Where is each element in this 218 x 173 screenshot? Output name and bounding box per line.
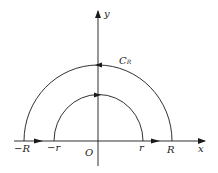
- arrow-segment-left-icon: [34, 139, 43, 144]
- pos-r-label: r: [139, 143, 144, 153]
- contour-diagram: y x O −R −r r R CR: [0, 0, 218, 173]
- neg-R-label: −R: [14, 144, 30, 154]
- arrow-outer-arc-icon: [95, 63, 102, 68]
- arrow-segment-right-icon: [151, 139, 160, 144]
- neg-r-label: −r: [47, 143, 60, 153]
- origin-label: O: [85, 148, 93, 158]
- curve-C-subscript: R: [127, 58, 132, 65]
- y-axis-label: y: [104, 9, 110, 19]
- inner-semicircle: [54, 94, 143, 141]
- diagram-svg: [0, 0, 218, 173]
- arrow-inner-arc-icon: [94, 93, 101, 98]
- pos-R-label: R: [167, 145, 175, 155]
- curve-C-main: C: [119, 55, 127, 66]
- x-axis-label: x: [198, 144, 204, 154]
- curve-C-label: CR: [119, 56, 131, 66]
